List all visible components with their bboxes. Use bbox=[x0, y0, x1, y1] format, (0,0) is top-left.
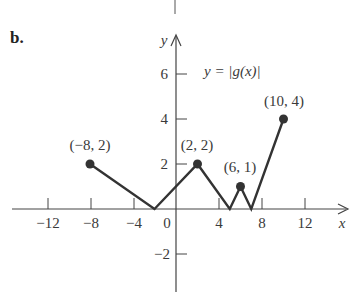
point-annotation: (6, 1) bbox=[224, 159, 257, 176]
point-marker bbox=[86, 160, 95, 169]
x-tick-label: 0 bbox=[163, 215, 171, 231]
point-marker bbox=[279, 115, 288, 124]
x-axis-label: x bbox=[338, 215, 346, 231]
x-tick-label: 4 bbox=[215, 215, 223, 231]
y-tick-label: −2 bbox=[154, 246, 170, 262]
x-tick-label: −8 bbox=[83, 215, 99, 231]
x-tick-label: 12 bbox=[298, 215, 313, 231]
y-ticks bbox=[176, 74, 187, 254]
equation-label: y = |g(x)| bbox=[202, 63, 261, 80]
figure-label: b. bbox=[10, 28, 24, 47]
y-tick-label: 4 bbox=[161, 111, 169, 127]
y-tick-label: 6 bbox=[161, 66, 169, 82]
point-annotation: (2, 2) bbox=[181, 137, 214, 154]
graph-canvas: −12 −8 −4 0 4 8 12 x 6 4 2 −2 y b. y = |… bbox=[0, 0, 359, 292]
point-annotation: (−8, 2) bbox=[70, 137, 111, 154]
y-tick-label: 2 bbox=[161, 156, 169, 172]
x-tick-label: −4 bbox=[126, 215, 142, 231]
x-axis bbox=[12, 204, 348, 214]
x-tick-label: −12 bbox=[36, 215, 59, 231]
point-marker bbox=[193, 160, 202, 169]
y-axis-label: y bbox=[159, 32, 168, 48]
x-tick-label: 8 bbox=[258, 215, 266, 231]
point-marker bbox=[236, 182, 245, 191]
point-annotation: (10, 4) bbox=[264, 93, 304, 110]
